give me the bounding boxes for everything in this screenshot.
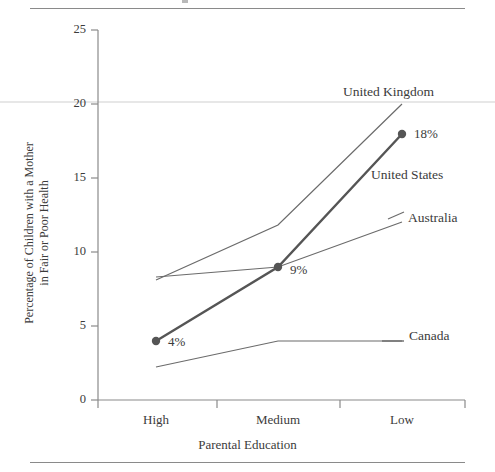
y-tick-label-20: 20 <box>56 96 86 111</box>
x-axis-title: Parental Education <box>0 437 495 453</box>
y-axis-title: Percentage of Children with a Mother in … <box>22 133 52 333</box>
y-axis-title-line2: in Fair or Poor Health <box>37 133 52 333</box>
x-label-medium: Medium <box>238 412 318 428</box>
point-label-medium: 9% <box>290 262 307 278</box>
series-line-united-kingdom <box>156 104 402 280</box>
point-label-high: 4% <box>168 334 185 350</box>
series-label-united-kingdom: United Kingdom <box>343 84 434 100</box>
series-line-united-states <box>156 134 402 341</box>
series-line-canada <box>156 341 402 367</box>
series-label-united-states: United States <box>371 167 443 183</box>
data-point-us-high <box>152 337 160 345</box>
series-label-australia: Australia <box>408 210 458 226</box>
y-tick-label-25: 25 <box>56 22 86 37</box>
x-label-high: High <box>116 412 196 428</box>
series-label-canada: Canada <box>409 328 449 344</box>
point-label-low: 18% <box>414 126 438 142</box>
chart-figure: 25 20 15 10 5 0 Percentage of Children w… <box>0 0 495 472</box>
y-tick-label-15: 15 <box>56 170 86 185</box>
y-tick-label-10: 10 <box>56 244 86 259</box>
leader-australia <box>388 212 404 219</box>
x-label-low: Low <box>362 412 442 428</box>
data-point-us-low <box>398 130 406 138</box>
y-tick-label-0: 0 <box>56 392 86 407</box>
y-tick-label-5: 5 <box>56 318 86 333</box>
y-axis-title-line1: Percentage of Children with a Mother <box>22 133 37 333</box>
data-point-us-medium <box>274 263 282 271</box>
